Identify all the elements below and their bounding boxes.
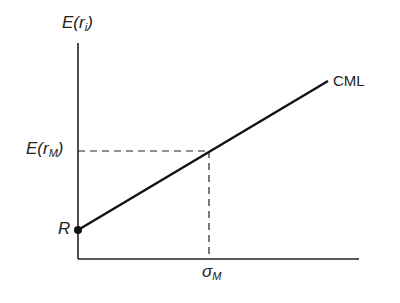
risk-free-point bbox=[74, 226, 82, 234]
risk-free-label: R bbox=[58, 220, 70, 237]
y-axis-label: E(ri) bbox=[62, 14, 93, 33]
cml-label: CML bbox=[333, 73, 365, 88]
market-return-label: E(rM) bbox=[26, 140, 64, 159]
market-sigma-label: σM bbox=[202, 263, 221, 282]
cml-line bbox=[78, 81, 328, 230]
